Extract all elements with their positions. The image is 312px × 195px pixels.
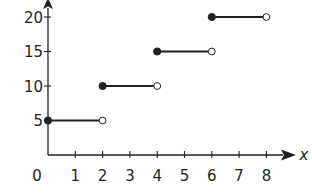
x-axis-arrow-icon bbox=[281, 150, 296, 161]
x-tick-label: 7 bbox=[234, 167, 244, 185]
x-tick-label: 1 bbox=[71, 167, 81, 185]
tick-labels: 123456780x5101520 bbox=[24, 9, 309, 186]
y-axis-arrow-icon bbox=[43, 0, 53, 9]
axes bbox=[43, 0, 296, 161]
y-tick-label: 5 bbox=[33, 112, 43, 130]
x-axis-label: x bbox=[299, 146, 309, 164]
step-segments bbox=[44, 13, 269, 124]
y-tick-label: 15 bbox=[24, 43, 43, 61]
x-tick-label: 5 bbox=[180, 167, 190, 185]
x-tick-label: 6 bbox=[207, 167, 217, 185]
closed-dot-icon bbox=[154, 48, 161, 55]
x-tick-label: 4 bbox=[152, 167, 162, 185]
y-tick-label: 20 bbox=[24, 9, 43, 27]
open-dot-icon bbox=[99, 117, 106, 124]
open-dot-icon bbox=[154, 83, 161, 90]
closed-dot-icon bbox=[99, 82, 106, 89]
origin-label: 0 bbox=[32, 167, 42, 185]
x-tick-label: 2 bbox=[98, 167, 108, 185]
closed-dot-icon bbox=[208, 13, 215, 20]
step-function-chart: 123456780x5101520 bbox=[0, 0, 312, 195]
y-tick-label: 10 bbox=[24, 78, 43, 96]
open-dot-icon bbox=[263, 14, 270, 21]
x-tick-label: 3 bbox=[125, 167, 135, 185]
closed-dot-icon bbox=[44, 117, 51, 124]
open-dot-icon bbox=[208, 48, 215, 55]
x-tick-label: 8 bbox=[262, 167, 272, 185]
